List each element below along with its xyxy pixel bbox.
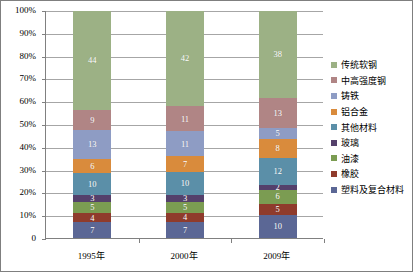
- legend-item-label: 其他材料: [341, 121, 377, 134]
- bar-segment-value: 2: [276, 185, 280, 190]
- legend-swatch-icon: [331, 187, 337, 193]
- bar-segment: 7: [166, 156, 204, 172]
- bar-segment-value: 11: [181, 140, 189, 149]
- bar-segment-value: 10: [181, 179, 190, 188]
- bar-segment-value: 3: [90, 195, 94, 202]
- y-axis-tick-mark: [42, 148, 46, 149]
- bar-segment-value: 3: [183, 195, 187, 202]
- y-axis-tick-mark: [42, 79, 46, 80]
- bar-segment-value: 10: [88, 180, 97, 189]
- bar-segment-value: 4: [183, 213, 187, 222]
- y-axis-tick-label: 20%: [0, 188, 36, 197]
- legend-item-label: 中高强度钢: [341, 74, 386, 87]
- bar-2009年[interactable]: 1056212851338: [259, 11, 297, 238]
- bar-segment-value: 44: [88, 56, 97, 65]
- bar-segment-value: 13: [273, 109, 282, 118]
- legend-item-label: 油漆: [341, 152, 359, 165]
- legend-swatch-icon: [331, 77, 337, 83]
- bar-segment-value: 9: [90, 116, 94, 125]
- bar-segment: 44: [73, 11, 111, 110]
- legend-swatch-icon: [331, 155, 337, 161]
- bar-segment: 13: [73, 130, 111, 159]
- legend-swatch-icon: [331, 124, 337, 130]
- legend-item-label: 铸铁: [341, 89, 359, 102]
- bar-segment: 12: [259, 158, 297, 186]
- y-axis-tick-mark: [42, 193, 46, 194]
- bar-segment: 5: [166, 202, 204, 213]
- bar-segment: 6: [73, 159, 111, 172]
- legend-item[interactable]: 塑料及复合材料: [331, 182, 411, 198]
- bar-segment: 9: [73, 110, 111, 130]
- bar-segment: 6: [259, 190, 297, 204]
- legend-item[interactable]: 其他材料: [331, 119, 411, 135]
- bar-1995年[interactable]: 745310613944: [73, 11, 111, 238]
- bar-segment: 5: [259, 204, 297, 215]
- legend-swatch-icon: [331, 93, 337, 99]
- y-axis-tick-label: 30%: [0, 166, 36, 175]
- y-axis-tick-label: 80%: [0, 52, 36, 61]
- y-axis-tick-label: 40%: [0, 143, 36, 152]
- bar-2000年[interactable]: 7453107111142: [166, 11, 204, 238]
- bar-segment: 10: [73, 173, 111, 195]
- chart-container: 74531061394474531071111421056212851338 传…: [0, 0, 413, 272]
- x-axis-tick-mark: [231, 239, 232, 243]
- y-axis-tick-label: 60%: [0, 97, 36, 106]
- chart-legend: 传统软钢中高强度钢铸铁铝合金其他材料玻璃油漆橡胶塑料及复合材料: [331, 57, 411, 197]
- y-axis-tick-mark: [42, 216, 46, 217]
- legend-item-label: 玻璃: [341, 136, 359, 149]
- legend-item-label: 传统软钢: [341, 58, 377, 71]
- y-axis-tick-label: 100%: [0, 6, 36, 15]
- bar-segment: 10: [166, 172, 204, 195]
- bar-segment: 3: [166, 195, 204, 202]
- plot-area: 74531061394474531071111421056212851338: [45, 11, 323, 239]
- y-axis-tick-label: 70%: [0, 74, 36, 83]
- y-axis-tick-label: 90%: [0, 29, 36, 38]
- legend-item-label: 铝合金: [341, 105, 368, 118]
- legend-swatch-icon: [331, 62, 337, 68]
- bar-segment: 8: [259, 139, 297, 157]
- x-axis-tick-mark: [139, 239, 140, 243]
- y-axis-tick-mark: [42, 11, 46, 12]
- bar-segment-value: 5: [276, 129, 280, 138]
- legend-item[interactable]: 铝合金: [331, 104, 411, 120]
- legend-item[interactable]: 玻璃: [331, 135, 411, 151]
- x-axis-tick-mark: [324, 239, 325, 243]
- bar-segment-value: 7: [183, 226, 187, 235]
- bar-segment: 11: [166, 131, 204, 156]
- y-axis-tick-mark: [42, 125, 46, 126]
- y-axis-tick-label: 10%: [0, 211, 36, 220]
- y-axis-tick-mark: [42, 239, 46, 240]
- bar-segment: 7: [73, 222, 111, 238]
- bar-segment-value: 10: [273, 222, 282, 231]
- bar-segment-value: 5: [276, 205, 280, 214]
- bar-segment: 5: [259, 128, 297, 139]
- bar-segment-value: 13: [88, 140, 97, 149]
- bar-segment-value: 42: [181, 54, 190, 63]
- x-axis-label: 2009年: [237, 249, 317, 262]
- legend-swatch-icon: [331, 140, 337, 146]
- x-axis-label: 1995年: [51, 249, 131, 262]
- bar-segment-value: 6: [90, 162, 94, 171]
- bar-segment-value: 7: [183, 160, 187, 169]
- bar-segment: 42: [166, 11, 204, 106]
- legend-item[interactable]: 铸铁: [331, 88, 411, 104]
- y-axis-tick-label: 50%: [0, 120, 36, 129]
- bar-segment-value: 7: [90, 226, 94, 235]
- bar-segment-value: 5: [90, 203, 94, 212]
- legend-item[interactable]: 传统软钢: [331, 57, 411, 73]
- bar-segment: 10: [259, 215, 297, 238]
- bar-segment-value: 4: [90, 214, 94, 223]
- y-axis-tick-label: 0: [0, 234, 36, 243]
- legend-item[interactable]: 橡胶: [331, 166, 411, 182]
- legend-item-label: 塑料及复合材料: [341, 183, 404, 196]
- bar-segment-value: 11: [181, 115, 189, 124]
- bar-segment: 7: [166, 222, 204, 238]
- legend-item[interactable]: 中高强度钢: [331, 73, 411, 89]
- x-axis-label: 2000年: [144, 249, 224, 262]
- bar-segment: 2: [259, 185, 297, 190]
- legend-item[interactable]: 油漆: [331, 151, 411, 167]
- bar-segment-value: 5: [183, 203, 187, 212]
- y-axis-tick-mark: [42, 57, 46, 58]
- bar-segment: 4: [166, 213, 204, 222]
- y-axis-tick-mark: [42, 171, 46, 172]
